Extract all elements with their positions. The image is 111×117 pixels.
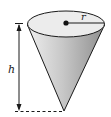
height-arrow-top-icon [17, 24, 22, 31]
height-label: h [8, 63, 15, 76]
cone-diagram: r h [0, 0, 111, 117]
cone-body [28, 25, 105, 111]
height-arrow-bottom-icon [17, 104, 22, 111]
